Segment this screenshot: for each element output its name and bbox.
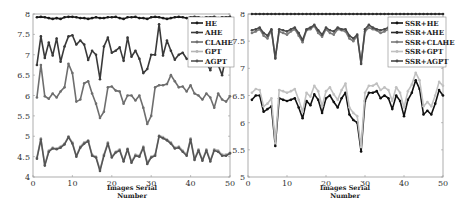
- data-point: [158, 84, 161, 87]
- data-point: [201, 159, 204, 162]
- data-point: [395, 94, 398, 97]
- data-point: [364, 91, 367, 94]
- data-point: [414, 79, 417, 82]
- data-point: [51, 92, 54, 95]
- data-point: [40, 35, 43, 38]
- data-point: [36, 16, 39, 19]
- chart-canvas: 44.555.566.577.5801020304050HEAHECLAHEGP…: [0, 0, 464, 199]
- data-point: [395, 86, 398, 89]
- data-point: [333, 13, 336, 16]
- data-point: [107, 142, 110, 145]
- data-point: [118, 17, 121, 20]
- data-point: [75, 16, 78, 19]
- data-point: [321, 33, 324, 36]
- data-point: [329, 29, 332, 32]
- data-point: [375, 13, 378, 16]
- data-point: [375, 90, 378, 93]
- data-point: [258, 26, 261, 29]
- data-point: [372, 13, 375, 16]
- data-point: [55, 148, 58, 151]
- data-point: [364, 13, 367, 16]
- data-point: [79, 146, 82, 149]
- data-point: [107, 86, 110, 89]
- data-point: [181, 51, 184, 54]
- data-point: [325, 13, 328, 16]
- data-point: [430, 13, 433, 16]
- data-point: [266, 34, 269, 37]
- data-point: [422, 113, 425, 116]
- data-point: [442, 84, 445, 87]
- data-point: [166, 139, 169, 142]
- data-point: [313, 13, 316, 16]
- data-point: [329, 86, 332, 89]
- data-point: [205, 149, 208, 152]
- data-point: [71, 142, 74, 145]
- data-point: [229, 95, 232, 98]
- data-point: [321, 105, 324, 108]
- data-point: [329, 94, 332, 97]
- data-point: [383, 94, 386, 97]
- data-point: [114, 49, 117, 52]
- data-point: [189, 138, 192, 141]
- data-point: [158, 135, 161, 138]
- data-point: [99, 78, 102, 81]
- data-point: [356, 115, 359, 118]
- data-point: [126, 16, 129, 19]
- data-point: [414, 13, 417, 16]
- data-point: [430, 105, 433, 108]
- data-point: [111, 85, 114, 88]
- data-point: [301, 13, 304, 16]
- data-point: [325, 90, 328, 93]
- data-point: [87, 140, 90, 143]
- data-point: [63, 86, 66, 89]
- data-point: [154, 155, 157, 158]
- data-point: [87, 59, 90, 62]
- data-point: [418, 13, 421, 16]
- data-point: [387, 13, 390, 16]
- y-tick-label: 8: [240, 10, 245, 19]
- data-point: [150, 115, 153, 118]
- data-point: [67, 16, 70, 19]
- data-point: [294, 97, 297, 100]
- data-point: [329, 13, 332, 16]
- data-point: [317, 90, 320, 93]
- data-point: [411, 83, 414, 86]
- data-point: [360, 146, 363, 149]
- legend-label: HE: [205, 19, 217, 28]
- data-point: [221, 98, 224, 101]
- data-point: [294, 13, 297, 16]
- data-point: [387, 97, 390, 100]
- data-point: [340, 13, 343, 16]
- data-point: [209, 160, 212, 163]
- data-point: [221, 155, 224, 158]
- data-point: [138, 155, 141, 158]
- data-point: [434, 13, 437, 16]
- x-tick-label: 0: [30, 179, 35, 188]
- data-point: [71, 72, 74, 75]
- data-point: [181, 150, 184, 153]
- x-tick-label: 40: [399, 179, 409, 188]
- data-point: [142, 106, 145, 109]
- data-point: [55, 37, 58, 40]
- data-point: [383, 28, 386, 31]
- data-point: [251, 91, 254, 94]
- data-point: [95, 156, 98, 159]
- data-point: [309, 13, 312, 16]
- data-point: [107, 16, 110, 19]
- data-point: [162, 17, 165, 20]
- data-point: [185, 90, 188, 93]
- data-point: [130, 55, 133, 58]
- data-point: [297, 32, 300, 35]
- data-point: [63, 16, 66, 19]
- data-point: [95, 53, 98, 56]
- data-point: [305, 91, 308, 94]
- data-point: [336, 99, 339, 102]
- data-point: [348, 34, 351, 37]
- data-point: [368, 13, 371, 16]
- data-point: [321, 13, 324, 16]
- data-point: [134, 16, 137, 19]
- data-point: [383, 86, 386, 89]
- data-point: [266, 13, 269, 16]
- data-point: [438, 89, 441, 92]
- data-point: [364, 28, 367, 31]
